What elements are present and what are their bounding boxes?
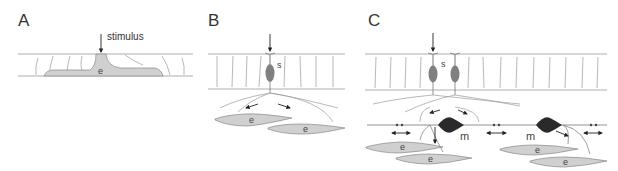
cell-label-m: m	[526, 130, 535, 142]
diagram: A e stimulus B s	[0, 0, 618, 171]
cell-label-e: e	[535, 145, 540, 155]
sensory-cell	[451, 66, 460, 83]
cell-label-e: e	[400, 142, 405, 152]
signal-arrow-icon	[458, 110, 467, 114]
panel-a: A e stimulus	[18, 11, 193, 76]
signal-arrow-icon	[430, 110, 440, 113]
signal-arrow-icon	[278, 104, 290, 108]
stimulus-label: stimulus	[107, 31, 144, 42]
effector-cell	[44, 54, 163, 76]
cell-label-s: s	[441, 59, 446, 69]
cell-label-e: e	[303, 124, 308, 134]
panel-label-c: C	[368, 11, 380, 30]
epithelial-boundaries	[375, 57, 598, 88]
cell-label-s: s	[277, 60, 282, 70]
motor-neuron	[536, 117, 562, 132]
signal-arrow-icon	[556, 131, 568, 136]
panel-label-b: B	[208, 11, 219, 30]
cell-label-e: e	[249, 115, 254, 125]
panel-c: C s	[365, 11, 607, 167]
epithelial-boundaries	[217, 56, 333, 87]
sensory-cell	[429, 66, 438, 83]
effector-cell	[396, 154, 472, 164]
cell-label-e: e	[563, 157, 568, 167]
panel-label-a: A	[18, 11, 30, 30]
cell-label-e: e	[428, 154, 433, 164]
panel-b: B s e e	[208, 11, 345, 134]
effector-cell	[530, 157, 607, 167]
signal-arrow-icon	[246, 104, 258, 108]
cell-label-m: m	[460, 130, 469, 142]
cell-label-e: e	[98, 66, 103, 76]
sensory-cell	[266, 64, 275, 82]
